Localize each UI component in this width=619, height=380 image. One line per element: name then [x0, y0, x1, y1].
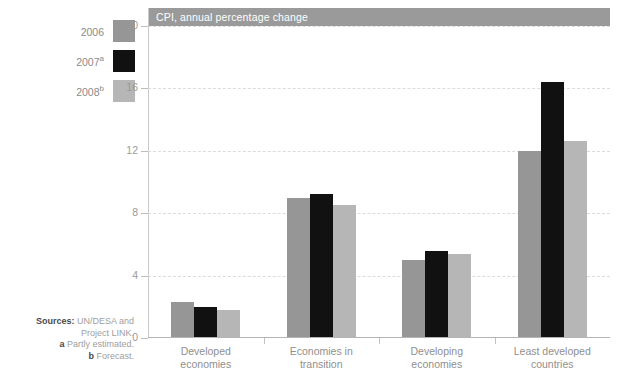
sources-line-1: Sources: UN/DESA and — [0, 316, 134, 328]
bar-2008b-1[interactable] — [217, 310, 240, 338]
x-axis-category-labels: DevelopedeconomiesEconomies intransition… — [148, 345, 610, 371]
bar-2006-3[interactable] — [402, 260, 425, 338]
y-tick-16 — [141, 88, 148, 89]
sources-line-2: Project LINK. — [0, 328, 134, 340]
category-label-line: Developing — [379, 345, 495, 358]
bars-3 — [379, 26, 495, 338]
y-tick-20 — [141, 26, 148, 27]
y-tick-0 — [141, 338, 148, 339]
legend-label-2008: 2008b — [76, 84, 104, 98]
sources-note: Sources: UN/DESA and Project LINK. a Par… — [0, 316, 134, 362]
y-tick-12 — [141, 151, 148, 152]
category-label-4: Least developedcountries — [495, 345, 611, 371]
chart-legend: 2006 2007a 2008b — [55, 18, 135, 108]
bars-1 — [148, 26, 264, 338]
bar-2006-4[interactable] — [518, 151, 541, 338]
category-label-line: transition — [264, 358, 380, 371]
x-axis-line — [148, 337, 610, 338]
bars-4 — [495, 26, 611, 338]
footnote-b: b Forecast. — [0, 351, 134, 363]
plot-area: 048121620 — [148, 26, 610, 338]
legend-label-2006: 2006 — [81, 24, 104, 38]
category-label-2: Economies intransition — [264, 345, 380, 371]
legend-item-2007: 2007a — [55, 48, 135, 74]
bar-2008b-3[interactable] — [448, 254, 471, 338]
category-label-line: economies — [379, 358, 495, 371]
footnote-a: a Partly estimated. — [0, 339, 134, 351]
bar-2006-2[interactable] — [287, 198, 310, 338]
y-axis-label-20: 20 — [108, 19, 138, 31]
bar-groups — [148, 26, 610, 338]
bar-group-2 — [264, 26, 380, 338]
x-axis-separator-3 — [495, 338, 496, 344]
category-label-3: Developingeconomies — [379, 345, 495, 371]
bar-2008b-4[interactable] — [564, 141, 587, 338]
y-axis-label-16: 16 — [108, 81, 138, 93]
bar-2007a-3[interactable] — [425, 251, 448, 338]
bar-group-1 — [148, 26, 264, 338]
y-axis-label-8: 8 — [108, 206, 138, 218]
chart-title: CPI, annual percentage change — [156, 11, 308, 23]
y-axis-label-12: 12 — [108, 144, 138, 156]
category-label-line: Least developed — [495, 345, 611, 358]
bar-group-3 — [379, 26, 495, 338]
bar-chart: CPI, annual percentage change 048121620 — [148, 8, 610, 338]
category-label-1: Developedeconomies — [148, 345, 264, 371]
legend-label-2007: 2007a — [76, 54, 104, 68]
legend-swatch-2007 — [113, 50, 135, 72]
bars-2 — [264, 26, 380, 338]
bar-2007a-4[interactable] — [541, 82, 564, 338]
bar-group-4 — [495, 26, 611, 338]
category-label-line: Developed — [148, 345, 264, 358]
y-tick-8 — [141, 213, 148, 214]
y-axis-label-4: 4 — [108, 269, 138, 281]
y-tick-4 — [141, 276, 148, 277]
category-label-line: economies — [148, 358, 264, 371]
x-axis-separator-1 — [264, 338, 265, 344]
category-label-line: Economies in — [264, 345, 380, 358]
bar-2007a-1[interactable] — [194, 307, 217, 338]
bar-2007a-2[interactable] — [310, 194, 333, 338]
x-axis-separator-2 — [379, 338, 380, 344]
bar-2006-1[interactable] — [171, 302, 194, 338]
bar-2008b-2[interactable] — [333, 205, 356, 338]
category-label-line: countries — [495, 358, 611, 371]
